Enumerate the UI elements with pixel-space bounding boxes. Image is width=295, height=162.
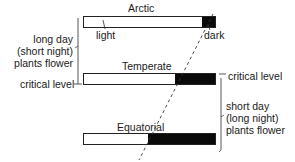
connector-lines — [0, 0, 295, 162]
critical-dashed-line — [139, 14, 213, 160]
light-pointer — [103, 20, 105, 29]
dark-pointer — [208, 24, 210, 30]
